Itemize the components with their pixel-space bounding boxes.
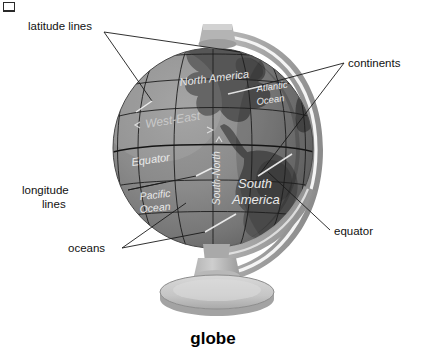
callout-label-equator: equator	[334, 225, 373, 237]
map-label-south-america-line2: America	[231, 192, 280, 207]
map-label-south-north: South-North	[211, 151, 222, 205]
callout-label-longitude-lines-1: longitude	[22, 184, 69, 196]
callout-label-longitude-lines-2: lines	[42, 198, 66, 210]
callout-label-latitude-lines: latitude lines	[28, 20, 92, 32]
corner-crop-mark	[3, 2, 15, 12]
figure-canvas: North America West-East Equator South-No…	[0, 0, 426, 357]
figure-caption: globe	[190, 329, 235, 348]
globe-top-mount	[199, 24, 237, 49]
map-label-south-america-line1: South	[238, 176, 272, 191]
callout-label-continents: continents	[348, 57, 401, 69]
leader-latitude-2	[104, 32, 152, 101]
globe-stand	[160, 244, 274, 316]
callout-label-oceans: oceans	[68, 242, 105, 254]
